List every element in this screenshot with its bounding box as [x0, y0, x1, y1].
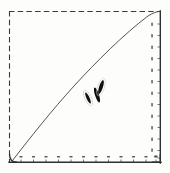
chart-svg	[0, 0, 170, 173]
plot-background	[9, 11, 161, 163]
figure-container	[0, 0, 170, 173]
